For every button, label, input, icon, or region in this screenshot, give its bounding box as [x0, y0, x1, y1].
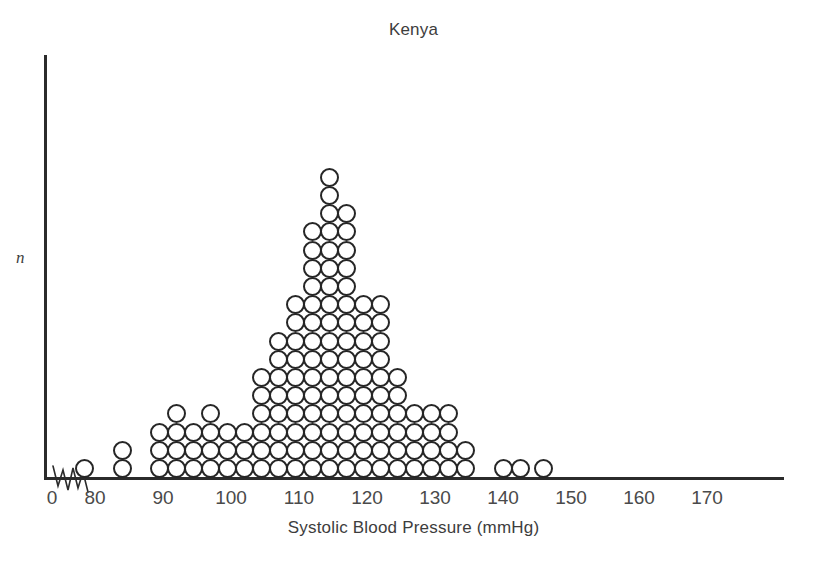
x-tick-label: 130: [419, 487, 451, 509]
data-point-dot: [320, 168, 339, 187]
data-point-dot: [439, 404, 458, 423]
x-tick-label: 150: [555, 487, 587, 509]
data-point-dot: [371, 313, 390, 332]
data-point-dot: [388, 368, 407, 387]
data-point-dot: [371, 332, 390, 351]
y-axis-line: [44, 55, 47, 479]
data-point-dot: [337, 241, 356, 260]
data-point-dot: [388, 386, 407, 405]
data-point-dot: [337, 277, 356, 296]
data-point-dot: [337, 222, 356, 241]
data-point-dot: [371, 350, 390, 369]
data-point-dot: [113, 459, 132, 478]
data-point-dot: [456, 459, 475, 478]
y-axis-label: n: [16, 248, 25, 268]
x-tick-label: 100: [215, 487, 247, 509]
data-point-dot: [456, 441, 475, 460]
data-point-dot: [494, 459, 513, 478]
x-tick-label: 80: [84, 487, 105, 509]
data-point-dot: [439, 423, 458, 442]
x-tick-label: 140: [487, 487, 519, 509]
data-point-dot: [201, 404, 220, 423]
x-tick-label: 0: [47, 487, 58, 509]
data-point-dot: [113, 441, 132, 460]
data-point-dot: [337, 259, 356, 278]
x-tick-label: 170: [691, 487, 723, 509]
x-tick-label: 120: [351, 487, 383, 509]
x-tick-label: 160: [623, 487, 655, 509]
x-axis-label: Systolic Blood Pressure (mmHg): [0, 518, 827, 538]
data-point-dot: [337, 204, 356, 223]
data-point-dot: [320, 186, 339, 205]
data-point-dot: [167, 404, 186, 423]
dot-plot-figure: Kenya n Systolic Blood Pressure (mmHg) 0…: [0, 0, 827, 570]
data-point-dot: [371, 295, 390, 314]
plot-area: n Systolic Blood Pressure (mmHg) 0809010…: [0, 0, 827, 570]
data-point-dot: [534, 459, 553, 478]
x-tick-label: 90: [152, 487, 173, 509]
data-point-dot: [511, 459, 530, 478]
x-tick-label: 110: [284, 487, 314, 509]
